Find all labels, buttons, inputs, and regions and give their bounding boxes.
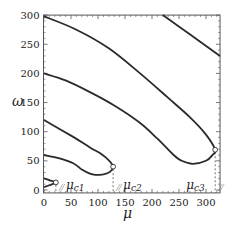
x-tick-label: 200 — [142, 197, 161, 208]
curves — [44, 15, 220, 187]
y-tick-label: 300 — [20, 10, 39, 21]
x-tick-label: 250 — [169, 197, 188, 208]
curve-branch-4 — [163, 15, 220, 56]
y-tick-label: 250 — [20, 39, 39, 50]
bifurcation-chart: 050100150200250300050100150200250300 μc1… — [0, 0, 234, 228]
plot-frame — [44, 15, 221, 193]
critical-label-c3: μc3 — [186, 178, 205, 193]
x-tick-label: 50 — [65, 197, 78, 208]
curve-branch-3-fold — [44, 16, 215, 164]
critical-point-marker — [213, 147, 218, 152]
critical-label-c1: μc1 — [66, 178, 85, 193]
critical-point-marker — [53, 180, 58, 185]
critical-point-marker — [111, 164, 116, 169]
critical-label-c2: μc2 — [123, 178, 142, 193]
x-tick-label: 300 — [196, 197, 215, 208]
y-tick-label: 200 — [20, 68, 39, 79]
critical-points: μc1μc2μc3 — [53, 147, 224, 193]
y-tick-label: 100 — [20, 126, 39, 137]
x-axis-label: μ — [123, 205, 132, 221]
x-tick-label: 0 — [41, 197, 47, 208]
y-tick-label: 0 — [33, 185, 39, 196]
x-tick-label: 100 — [88, 197, 107, 208]
y-axis-label: ω — [12, 93, 24, 109]
curve-branch-2-fold — [44, 120, 113, 175]
y-tick-label: 50 — [27, 155, 40, 166]
frame-rect — [44, 15, 221, 193]
